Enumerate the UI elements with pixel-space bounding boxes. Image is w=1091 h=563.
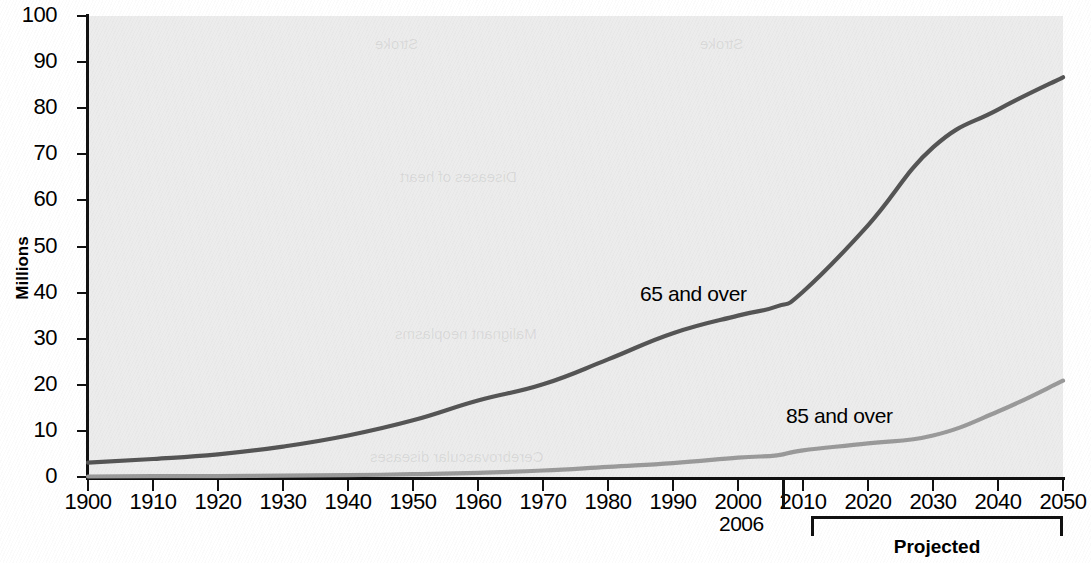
projected-label: Projected — [811, 536, 1063, 558]
population-age-line-chart: Stroke Diseases of heart Malignant neopl… — [0, 0, 1091, 563]
series-label-65-and-over: 65 and over — [640, 282, 747, 306]
series-layer — [0, 0, 1091, 563]
series-label-85-and-over: 85 and over — [786, 404, 893, 428]
label-2006: 2006 — [719, 512, 764, 536]
line-85-and-over — [88, 381, 1063, 477]
line-65-and-over — [88, 77, 1063, 462]
projected-bracket — [811, 516, 1063, 536]
tick-2006-marker — [782, 480, 785, 508]
